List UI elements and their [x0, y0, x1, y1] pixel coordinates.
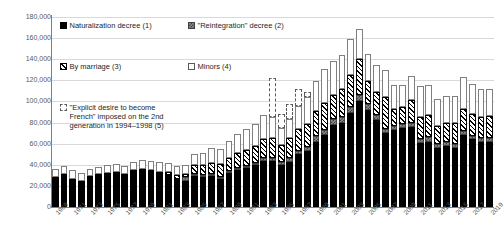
y-axis-tick-label: 140,000: [4, 55, 51, 63]
y-axis-tick-label: 60,000: [4, 140, 51, 148]
bar-segment-naturalization: [399, 128, 406, 207]
bar-column: [69, 170, 76, 207]
bar-segment-naturalization: [417, 143, 424, 207]
bar-column: [365, 54, 372, 207]
bar-segment-minors: [87, 169, 94, 176]
bar-segment-naturalization: [304, 151, 311, 207]
bar-segment-minors: [174, 166, 181, 176]
y-axis-tick-label: 160,000: [4, 34, 51, 42]
bar-segment-minors: [399, 85, 406, 107]
bar-segment-naturalization: [313, 142, 320, 207]
bar-column: [434, 99, 441, 207]
bar-column: [217, 149, 224, 207]
bar-segment-naturalization: [139, 171, 146, 207]
bar-segment-marriage: [191, 165, 198, 175]
bar-column: [121, 166, 128, 207]
bar-column: [234, 134, 241, 207]
bar-segment-marriage: [252, 146, 259, 163]
legend-label: "Reintegration" decree (2): [198, 21, 284, 30]
bar-segment-marriage: [382, 97, 389, 129]
bar-segment-marriage: [208, 163, 215, 175]
bar-segment-minors: [148, 161, 155, 171]
bar-segment-naturalization: [208, 176, 215, 207]
bar-segment-minors: [139, 160, 146, 170]
bar-segment-minors: [200, 153, 207, 165]
bar-column: [443, 96, 450, 207]
legend-reintegration[interactable]: "Reintegration" decree (2): [188, 21, 284, 30]
bar-segment-minors: [182, 165, 189, 173]
bar-segment-marriage: [408, 100, 415, 122]
bar-segment-naturalization: [321, 135, 328, 207]
bar-segment-marriage: [443, 123, 450, 142]
bar-segment-marriage: [452, 123, 459, 144]
chart-legend: Naturalization decree (1)"Reintegration"…: [60, 17, 360, 135]
bar-segment-naturalization: [260, 161, 267, 207]
bar-segment-marriage: [425, 115, 432, 137]
legend-label: Minors (4): [198, 62, 232, 71]
bar-segment-naturalization: [69, 179, 76, 208]
bar-segment-marriage: [243, 150, 250, 166]
legend-marriage[interactable]: By marriage (3): [60, 62, 121, 71]
bar-segment-marriage: [217, 164, 224, 177]
bar-segment-marriage: [469, 114, 476, 136]
bar-segment-naturalization: [226, 173, 233, 207]
y-axis-tick-labels: 020,00040,00060,00080,000100,000120,0001…: [0, 0, 51, 246]
bar-segment-minors: [121, 166, 128, 174]
bar-segment-naturalization: [478, 142, 485, 207]
bar-column: [208, 148, 215, 207]
bar-column: [452, 96, 459, 207]
legend-label: "Explicit desire to become French" impos…: [70, 103, 164, 130]
bar-segment-minors: [113, 164, 120, 172]
bar-segment-naturalization: [408, 127, 415, 207]
bar-segment-marriage: [234, 153, 241, 168]
bar-segment-minors: [417, 86, 424, 117]
bar-segment-naturalization: [121, 174, 128, 207]
legend-swatch-icon: [188, 22, 195, 29]
bar-column: [156, 162, 163, 207]
bar-column: [278, 128, 285, 207]
bar-segment-minors: [425, 85, 432, 116]
bar-column: [425, 85, 432, 207]
bar-segment-naturalization: [365, 110, 372, 207]
y-axis-tick-label: 0: [4, 203, 51, 211]
bar-segment-naturalization: [486, 142, 493, 207]
y-axis-tick-label: 20,000: [4, 182, 51, 190]
y-axis-tick-label: 40,000: [4, 161, 51, 169]
bar-segment-naturalization: [174, 179, 181, 208]
bar-column: [87, 169, 94, 207]
bar-column: [174, 166, 181, 207]
bar-segment-naturalization: [156, 174, 163, 207]
bar-segment-minors: [234, 134, 241, 153]
legend-label: Naturalization decree (1): [70, 21, 152, 30]
legend-swatch-icon: [60, 63, 67, 70]
bar-segment-marriage: [399, 107, 406, 124]
bar-segment-marriage: [417, 117, 424, 139]
bar-segment-minors: [165, 163, 172, 173]
bar-column: [139, 160, 146, 207]
bar-segment-minors: [373, 65, 380, 92]
y-axis-tick-label: 180,000: [4, 13, 51, 21]
bar-column: [243, 129, 250, 207]
bar-column: [391, 85, 398, 207]
bar-segment-naturalization: [460, 135, 467, 207]
bar-segment-minors: [69, 170, 76, 178]
bar-segment-minors: [156, 162, 163, 172]
bar-segment-minors: [382, 70, 389, 97]
bar-column: [226, 141, 233, 207]
bar-segment-minors: [460, 77, 467, 109]
bar-segment-naturalization: [434, 148, 441, 207]
bar-segment-marriage: [269, 138, 276, 158]
bar-segment-naturalization: [191, 176, 198, 207]
bar-column: [486, 89, 493, 207]
bar-segment-naturalization: [425, 142, 432, 207]
bar-column: [191, 154, 198, 207]
legend-naturalization[interactable]: Naturalization decree (1): [60, 21, 152, 30]
bar-segment-minors: [104, 165, 111, 173]
bar-segment-minors: [78, 173, 85, 180]
bar-segment-naturalization: [243, 168, 250, 207]
bar-segment-marriage: [200, 165, 207, 176]
bar-segment-marriage: [286, 138, 293, 158]
legend-minors[interactable]: Minors (4): [188, 62, 231, 71]
bar-column: [408, 76, 415, 207]
legend-explicit-desire[interactable]: "Explicit desire to become French" impos…: [60, 103, 164, 130]
